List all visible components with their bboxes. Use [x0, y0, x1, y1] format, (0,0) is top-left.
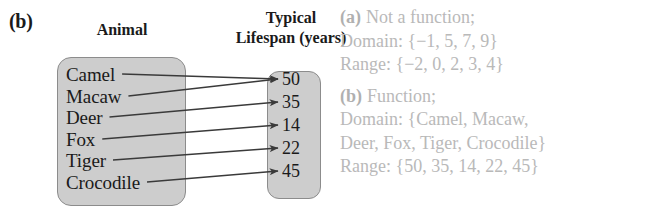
answer-b-tag: (b) — [340, 86, 362, 106]
range-item: 50 — [282, 70, 300, 89]
range-item: 35 — [282, 93, 300, 112]
answer-b-range: Range: {50, 35, 14, 22, 45} — [340, 155, 666, 179]
answer-a-verdict-line: (a)Not a function; — [340, 6, 666, 30]
answer-a-range: Range: {−2, 0, 2, 3, 4} — [340, 53, 666, 77]
domain-item: Deer — [66, 108, 103, 127]
domain-item: Tiger — [66, 151, 106, 170]
domain-item: Fox — [66, 130, 95, 149]
range-item: 45 — [282, 162, 300, 181]
answer-b-verdict: Function; — [367, 86, 436, 106]
answer-b-verdict-line: (b)Function; — [340, 85, 666, 109]
part-label-b: (b) — [9, 11, 33, 31]
answer-block-b: (b)Function; Domain: {Camel, Macaw, Deer… — [340, 85, 666, 179]
range-item: 14 — [282, 116, 300, 135]
domain-item: Crocodile — [66, 173, 140, 192]
answer-a-domain: Domain: {−1, 5, 7, 9} — [340, 30, 666, 54]
answer-b-domain-line2: Deer, Fox, Tiger, Crocodile} — [340, 132, 666, 156]
answer-panel: (a)Not a function; Domain: {−1, 5, 7, 9}… — [340, 6, 666, 179]
domain-item: Camel — [66, 65, 115, 84]
range-item: 22 — [282, 139, 300, 158]
answer-a-verdict: Not a function; — [366, 7, 475, 27]
answer-block-a: (a)Not a function; Domain: {−1, 5, 7, 9}… — [340, 6, 666, 77]
figure-canvas: (b) Animal Typical Lifespan (years) (a)N… — [0, 0, 668, 217]
answer-a-tag: (a) — [340, 7, 361, 27]
domain-item: Macaw — [66, 87, 121, 106]
answer-b-domain-line1: Domain: {Camel, Macaw, — [340, 108, 666, 132]
column-header-animal: Animal — [62, 20, 182, 40]
